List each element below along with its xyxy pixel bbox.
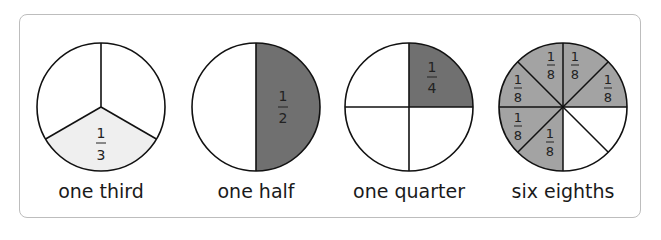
caption-six-eighths: six eighths [488, 180, 638, 202]
svg-text:8: 8 [514, 128, 522, 143]
pie-one-half: 1 2 [192, 43, 320, 171]
svg-text:8: 8 [604, 90, 612, 105]
svg-text:1: 1 [547, 49, 555, 64]
svg-text:1: 1 [546, 126, 554, 141]
svg-text:8: 8 [546, 144, 554, 159]
svg-text:2: 2 [279, 110, 288, 126]
svg-text:1: 1 [279, 88, 288, 104]
numerator: 1 [97, 125, 106, 141]
caption-one-quarter: one quarter [334, 180, 484, 202]
svg-text:1: 1 [604, 72, 612, 87]
svg-text:1: 1 [514, 72, 522, 87]
pie-one-third: 1 3 [37, 43, 165, 171]
svg-text:8: 8 [547, 67, 555, 82]
svg-text:1: 1 [514, 110, 522, 125]
svg-text:4: 4 [428, 80, 437, 96]
svg-text:8: 8 [514, 90, 522, 105]
caption-one-third: one third [26, 180, 176, 202]
pie-one-quarter: 1 4 [345, 43, 473, 171]
denominator: 3 [97, 147, 106, 163]
caption-one-half: one half [181, 180, 331, 202]
svg-text:8: 8 [571, 67, 579, 82]
svg-text:1: 1 [571, 49, 579, 64]
pie-six-eighths: 18 18 18 18 18 18 [499, 43, 627, 171]
svg-text:1: 1 [428, 59, 437, 75]
